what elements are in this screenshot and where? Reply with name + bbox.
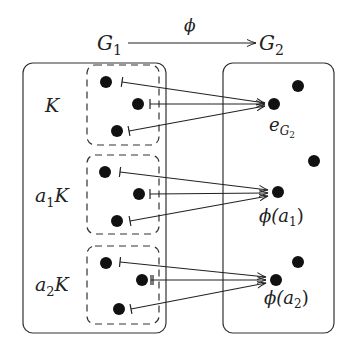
element-dot bbox=[99, 166, 111, 178]
element-dot bbox=[100, 76, 112, 88]
domain-elements bbox=[99, 76, 148, 315]
element-dot bbox=[132, 98, 144, 110]
element-dot bbox=[136, 274, 148, 286]
coset-box-K bbox=[87, 65, 159, 145]
homomorphism-diagram: G2 --> G1 ϕ G2 K a1K a2K bbox=[0, 0, 359, 356]
target-group-label: G2 bbox=[259, 31, 284, 58]
identity-dot bbox=[268, 98, 280, 110]
arrow-K-1 bbox=[122, 82, 265, 103]
image-a2-label: ϕ(a2) bbox=[264, 287, 309, 311]
element-dot bbox=[111, 125, 123, 137]
element-dot bbox=[133, 188, 145, 200]
element-dot bbox=[113, 303, 125, 315]
arrow-a1K-3 bbox=[130, 196, 268, 221]
arrow-K-3 bbox=[129, 106, 265, 131]
arrow-a1K-2 bbox=[150, 193, 268, 194]
coset-box-a1K bbox=[87, 155, 159, 234]
image-a1-label: ϕ(a1) bbox=[259, 205, 304, 229]
arrow-a1K-1 bbox=[120, 172, 268, 190]
identity-label: eG2 bbox=[269, 114, 295, 140]
coset-label-a1K: a1K bbox=[35, 184, 71, 210]
image-a2-dot bbox=[270, 274, 282, 286]
element-dot bbox=[100, 257, 112, 269]
coset-label-a2K: a2K bbox=[35, 273, 71, 299]
element-dot bbox=[308, 155, 320, 167]
element-dot bbox=[111, 215, 123, 227]
coset-label-K: K bbox=[44, 94, 61, 116]
element-dot bbox=[292, 256, 304, 268]
element-dot bbox=[292, 80, 304, 92]
top-mapping: G1 ϕ G2 bbox=[97, 15, 284, 58]
source-group-label: G1 bbox=[97, 31, 122, 58]
codomain-elements bbox=[268, 80, 320, 286]
image-a1-dot bbox=[272, 186, 284, 198]
arrow-a2K-3 bbox=[131, 283, 266, 309]
phi-label: ϕ bbox=[184, 15, 196, 35]
